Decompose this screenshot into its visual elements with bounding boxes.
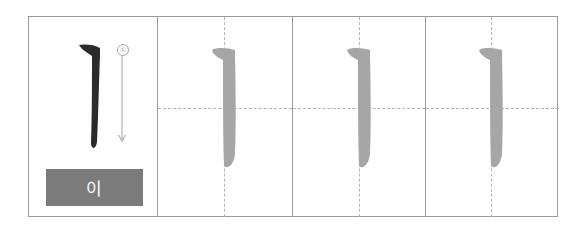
stroke-direction-arrow-icon bbox=[117, 55, 127, 145]
trace-stroke-icon bbox=[210, 46, 240, 172]
model-stroke-icon bbox=[76, 42, 106, 152]
column-divider bbox=[425, 16, 426, 217]
column-divider bbox=[157, 16, 158, 217]
trace-stroke-icon bbox=[345, 46, 375, 172]
character-name-label: 이 bbox=[46, 169, 143, 206]
column-divider bbox=[292, 16, 293, 217]
trace-stroke-icon bbox=[477, 46, 507, 172]
